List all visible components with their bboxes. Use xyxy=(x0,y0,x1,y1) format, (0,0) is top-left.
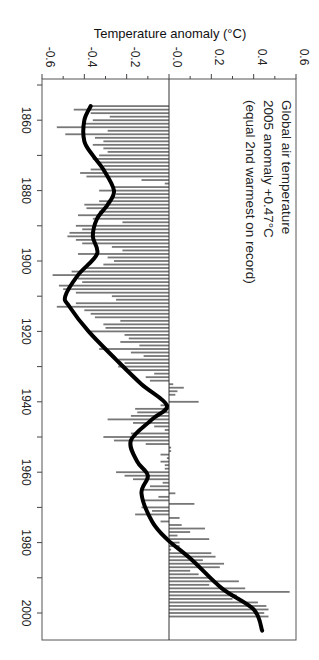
bar-1872 xyxy=(99,162,169,164)
bar-1933 xyxy=(146,376,169,378)
bar-1905 xyxy=(78,278,169,280)
bar-1977 xyxy=(169,531,190,533)
value-tick-label: -0.0 xyxy=(170,47,184,68)
bar-1929 xyxy=(125,362,169,364)
bar-1937 xyxy=(169,390,177,392)
bar-1909 xyxy=(76,292,169,294)
bar-1912 xyxy=(76,302,169,304)
smoothed-line xyxy=(65,106,262,630)
annotation: Global air temperature2005 anomaly +0.47… xyxy=(243,100,294,284)
year-tick-label: 1920 xyxy=(19,318,33,345)
bar-1945 xyxy=(108,419,169,421)
bar-2001 xyxy=(169,616,268,618)
bar-1884 xyxy=(84,204,169,206)
bar-1988 xyxy=(169,570,190,572)
bar-1976 xyxy=(169,528,205,530)
year-axis-ticks: 18601880190019201940196019802000 xyxy=(19,85,42,627)
bar-1890 xyxy=(76,225,169,227)
value-tick-label: -0.6 xyxy=(43,47,57,68)
bar-1959 xyxy=(165,468,169,470)
bar-1969 xyxy=(169,503,194,505)
bar-1957 xyxy=(161,461,169,463)
bar-1975 xyxy=(169,524,182,526)
bar-1865 xyxy=(95,137,169,139)
year-tick-label: 1940 xyxy=(19,388,33,415)
bar-1867 xyxy=(93,144,169,146)
bar-1910 xyxy=(112,295,169,297)
bar-1871 xyxy=(93,158,169,160)
bar-1856 xyxy=(91,105,169,107)
bar-1958 xyxy=(165,464,169,466)
bar-1922 xyxy=(129,338,169,340)
bar-1952 xyxy=(146,443,169,445)
bar-1869 xyxy=(108,151,169,153)
bar-1906 xyxy=(82,281,169,283)
value-tick-label: 0.2 xyxy=(212,49,226,66)
bar-1880 xyxy=(99,190,169,192)
bar-1931 xyxy=(129,369,169,371)
bar-1888 xyxy=(93,218,169,220)
bar-1913 xyxy=(57,306,169,308)
bar-1978 xyxy=(169,535,177,537)
year-tick-label: 1860 xyxy=(19,107,33,134)
bar-1938 xyxy=(169,394,175,396)
bar-1992 xyxy=(169,584,209,586)
bar-1875 xyxy=(80,172,169,174)
bar-1932 xyxy=(154,373,169,375)
bar-1940 xyxy=(169,401,199,403)
bar-1914 xyxy=(84,309,169,311)
bar-1904 xyxy=(53,274,169,276)
bar-1894 xyxy=(76,239,169,241)
bar-1996 xyxy=(169,598,233,600)
bar-1892 xyxy=(70,232,169,234)
bar-1889 xyxy=(122,221,169,223)
bar-1934 xyxy=(150,380,169,382)
bar-1870 xyxy=(99,155,169,157)
bar-1971 xyxy=(152,510,169,512)
bar-1928 xyxy=(118,359,169,361)
value-tick-label: 0.4 xyxy=(255,49,269,66)
bar-1898 xyxy=(78,253,169,255)
bar-1923 xyxy=(120,341,169,343)
value-axis-ticks: -0.6-0.4-0.2-0.00.20.40.6 xyxy=(42,47,311,79)
bar-1962 xyxy=(133,478,169,480)
year-tick-label: 1960 xyxy=(19,459,33,486)
bar-1878 xyxy=(165,183,169,185)
bar-1972 xyxy=(135,514,169,516)
bar-1881 xyxy=(116,193,169,195)
bar-1919 xyxy=(106,327,170,329)
bar-1968 xyxy=(144,499,169,501)
bar-1903 xyxy=(72,271,169,273)
year-tick-label: 1880 xyxy=(19,177,33,204)
annotation-line-3: (equal 2nd warmest on record) xyxy=(243,100,258,284)
bar-1947 xyxy=(154,426,169,428)
bar-1964 xyxy=(150,485,169,487)
bar-1900 xyxy=(114,260,169,262)
bar-1876 xyxy=(86,176,169,178)
value-axis-title: Temperature anomaly (°C) xyxy=(94,26,247,41)
bar-1960 xyxy=(116,471,169,473)
year-tick-label: 1980 xyxy=(19,529,33,556)
bar-1911 xyxy=(116,299,169,301)
bar-1974 xyxy=(161,521,169,523)
bar-1965 xyxy=(141,489,169,491)
bar-1991 xyxy=(169,580,239,582)
bar-1862 xyxy=(57,126,169,128)
bar-1987 xyxy=(169,566,220,568)
year-tick-label: 2000 xyxy=(19,600,33,627)
annotation-line-1: Global air temperature xyxy=(279,100,294,234)
bar-1967 xyxy=(158,496,169,498)
bar-1873 xyxy=(103,165,169,167)
bar-1927 xyxy=(144,355,169,357)
bar-1989 xyxy=(169,573,199,575)
bar-1984 xyxy=(169,556,216,558)
bar-1985 xyxy=(169,559,203,561)
bar-1926 xyxy=(131,352,169,354)
bar-1918 xyxy=(103,323,169,325)
bar-1886 xyxy=(99,211,169,213)
bar-1908 xyxy=(63,288,169,290)
bar-1983 xyxy=(169,552,211,554)
bar-1915 xyxy=(91,313,169,315)
bar-1944 xyxy=(131,415,169,417)
bar-1863 xyxy=(108,130,169,132)
